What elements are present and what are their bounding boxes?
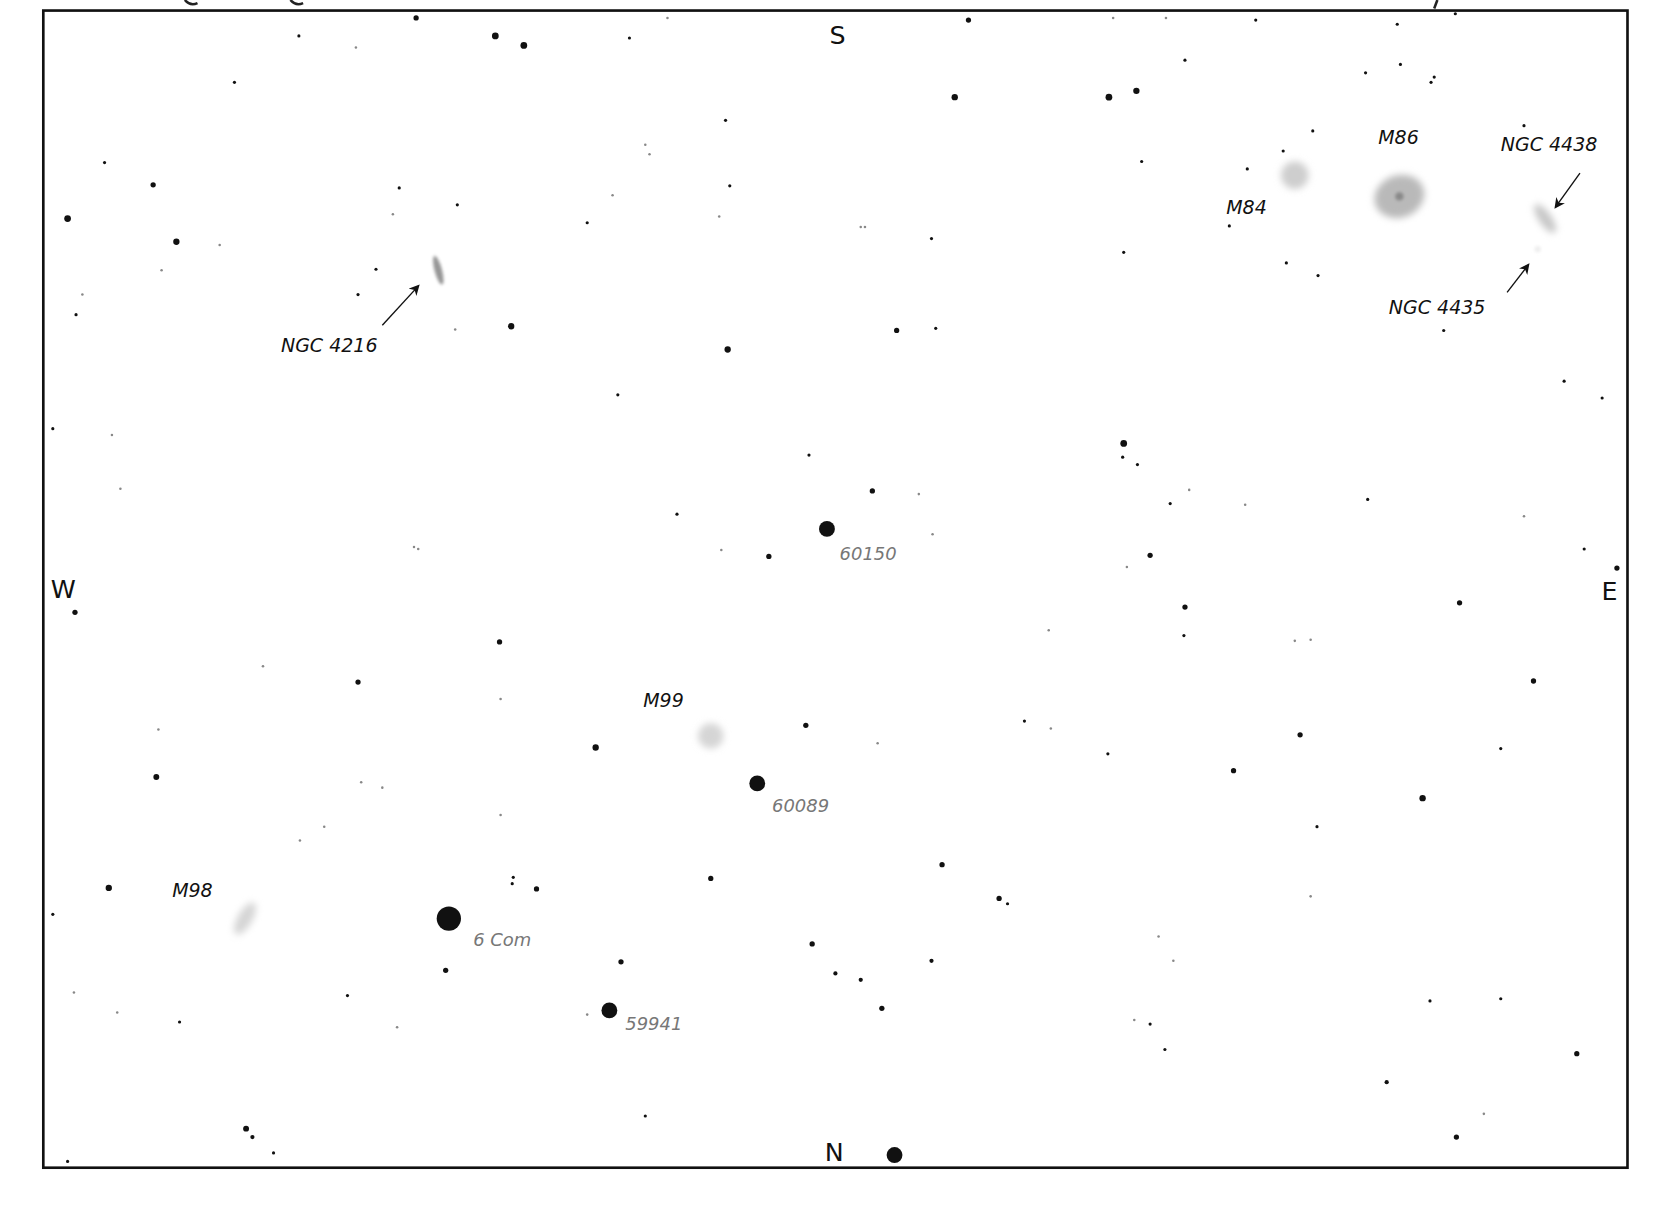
star (1133, 88, 1139, 94)
star (586, 1013, 589, 1016)
galaxy-label: NGC 4435 (1389, 296, 1486, 318)
star (1050, 727, 1053, 730)
star (272, 1151, 275, 1154)
star (939, 862, 944, 867)
star (1454, 1134, 1459, 1139)
direction-w: W (51, 574, 76, 604)
star (1047, 629, 1050, 632)
star (150, 182, 155, 187)
star (1309, 639, 1312, 642)
star (725, 346, 731, 352)
star (803, 723, 808, 728)
star (1442, 329, 1445, 332)
star-label: 59941 (625, 1013, 682, 1034)
star (1231, 768, 1236, 773)
star (1120, 440, 1127, 447)
direction-n: N (825, 1137, 844, 1167)
star (1309, 895, 1312, 898)
star (157, 728, 160, 731)
star (51, 913, 54, 916)
star (1583, 547, 1586, 550)
star (611, 194, 614, 197)
star (1366, 498, 1369, 501)
star (499, 698, 502, 701)
star (1428, 999, 1431, 1002)
star (1601, 396, 1604, 399)
star (618, 959, 623, 964)
star (1297, 732, 1302, 737)
star (592, 744, 598, 750)
star (1228, 224, 1231, 227)
star (74, 313, 77, 316)
direction-e: E (1602, 576, 1618, 606)
star (374, 268, 377, 271)
star (103, 161, 106, 164)
star (111, 434, 114, 437)
star (396, 1026, 399, 1029)
star (511, 882, 514, 885)
star-marker (819, 521, 835, 537)
star (72, 610, 77, 615)
star (870, 488, 875, 493)
star (1106, 752, 1109, 755)
star (1399, 63, 1402, 66)
star (297, 34, 300, 37)
star-chart: 60150600896 Com59941M84M86NGC 4438NGC 44… (0, 0, 1656, 1211)
star (106, 885, 112, 891)
star (1254, 18, 1257, 21)
star (879, 1006, 884, 1011)
star (417, 548, 420, 551)
star (966, 17, 971, 22)
star (508, 323, 514, 329)
star (810, 941, 815, 946)
star (66, 1160, 69, 1163)
star (218, 244, 221, 247)
star (64, 215, 71, 222)
star (1140, 160, 1143, 163)
galaxy-label: NGC 4438 (1501, 133, 1598, 155)
star (1364, 71, 1367, 74)
star (534, 886, 539, 891)
star (398, 186, 401, 189)
star (1454, 12, 1457, 15)
galaxy-label: NGC 4216 (281, 334, 378, 356)
star (392, 213, 395, 216)
star (1169, 502, 1172, 505)
star (766, 554, 771, 559)
galaxy-m84 (1281, 162, 1308, 189)
star (1311, 129, 1314, 132)
star (894, 328, 899, 333)
star (178, 1020, 181, 1023)
star (119, 488, 122, 491)
star (1122, 251, 1125, 254)
star (1172, 960, 1175, 963)
star (323, 825, 326, 828)
star (346, 994, 349, 997)
star (153, 774, 159, 780)
star (859, 226, 862, 229)
star (73, 991, 76, 994)
cut-off-caption (185, 0, 1438, 8)
star (1285, 261, 1288, 264)
star (1457, 600, 1462, 605)
star (859, 978, 863, 982)
star (864, 226, 867, 229)
star (413, 15, 418, 20)
star (1183, 59, 1186, 62)
star (1188, 489, 1191, 492)
star (996, 896, 1001, 901)
star (1163, 1048, 1166, 1051)
star (355, 46, 358, 49)
star (1147, 553, 1152, 558)
star-chart-canvas: 60150600896 Com59941M84M86NGC 4438NGC 44… (0, 0, 1656, 1211)
galaxy-label: M84 (1226, 196, 1267, 218)
star (160, 269, 163, 272)
star (381, 786, 384, 789)
star (1294, 640, 1297, 643)
star (644, 143, 647, 146)
star (360, 781, 363, 784)
star (1483, 1113, 1486, 1116)
star (1121, 456, 1124, 459)
star (1316, 274, 1319, 277)
star (1136, 463, 1139, 466)
